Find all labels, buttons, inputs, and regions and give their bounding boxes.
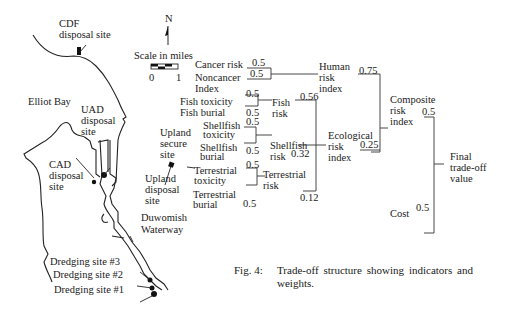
weight-fish-risk: 0.56 xyxy=(300,92,318,102)
weight-noncancer-index: 0.5 xyxy=(250,69,263,79)
node-terrestrial-risk: Terrestrial risk xyxy=(263,169,306,191)
elliot-bay-label: Elliot Bay xyxy=(28,97,71,107)
leaf-shellfish-burial: Shellfish burial xyxy=(200,143,237,161)
dredging-site-1-label: Dredging site #1 xyxy=(54,285,124,295)
weight-shellfish-burial: 0.5 xyxy=(246,146,259,156)
leaf-shellfish-toxicity: Shellfish toxicity xyxy=(203,121,240,139)
leaf-cost: Cost xyxy=(390,209,409,219)
cad-disposal-site-label: CAD disposal site xyxy=(49,159,83,192)
weight-terrestrial-risk: 0.12 xyxy=(300,193,318,203)
upland-disposal-site-label: Upland disposal site xyxy=(145,173,179,206)
leaf-terrestrial-toxicity: Terrestrial toxicity xyxy=(194,166,237,186)
node-fish-risk: Fish risk xyxy=(272,97,290,119)
caption-label: Fig. 4: xyxy=(234,264,263,277)
weight-human-risk-index: 0.75 xyxy=(359,66,377,76)
weight-terrestrial-burial: 0.5 xyxy=(243,199,256,209)
upland-secure-site-label: Upland secure site xyxy=(160,127,191,160)
cdf-disposal-site-label: CDF disposal site xyxy=(59,18,111,40)
scale-tick-0: 0 xyxy=(149,73,154,83)
scale-bar xyxy=(151,64,178,69)
north-label: N xyxy=(165,14,173,24)
weight-shellfish-risk: 0.32 xyxy=(291,149,309,159)
node-human-risk-index: Human risk index xyxy=(319,61,350,94)
figure: CDF disposal site Elliot Bay UAD disposa… xyxy=(0,0,518,311)
weight-fish-toxicity: 0.5 xyxy=(246,89,259,99)
weight-terrestrial-toxicity: 0.5 xyxy=(246,160,259,170)
uad-disposal-site-label: UAD disposal site xyxy=(81,104,115,137)
leaf-cancer-risk: Cancer risk xyxy=(195,60,243,70)
node-final-tradeoff-value: Final trade-off value xyxy=(450,151,487,184)
caption-text: Trade-off structure showing indicators a… xyxy=(277,264,473,290)
weight-ecological-risk-index: 0.25 xyxy=(360,140,378,150)
leaf-fish-toxicity: Fish toxicity xyxy=(180,97,233,107)
leaf-fish-burial: Fish burial xyxy=(180,108,225,118)
leaf-terrestrial-burial: Terrestrial burial xyxy=(193,190,236,210)
map-coastline xyxy=(24,35,168,290)
scale-tick-1: 1 xyxy=(176,73,181,83)
weight-cancer-risk: 0.5 xyxy=(252,58,265,68)
duwamish-waterway-label: Duwomish Waterway xyxy=(141,212,187,236)
weight-composite-risk-index: 0.5 xyxy=(422,107,435,117)
leaf-noncancer-index: Noncancer Index xyxy=(195,72,240,94)
weight-shellfish-toxicity: 0.5 xyxy=(246,117,259,127)
scale-title: Scale in miles xyxy=(134,51,193,61)
weight-cost: 0.5 xyxy=(416,203,429,213)
dredging-site-2-label: Dredging site #2 xyxy=(53,270,123,280)
dredging-site-3-label: Dredging site #3 xyxy=(50,257,120,267)
north-arrow-icon xyxy=(165,26,168,45)
